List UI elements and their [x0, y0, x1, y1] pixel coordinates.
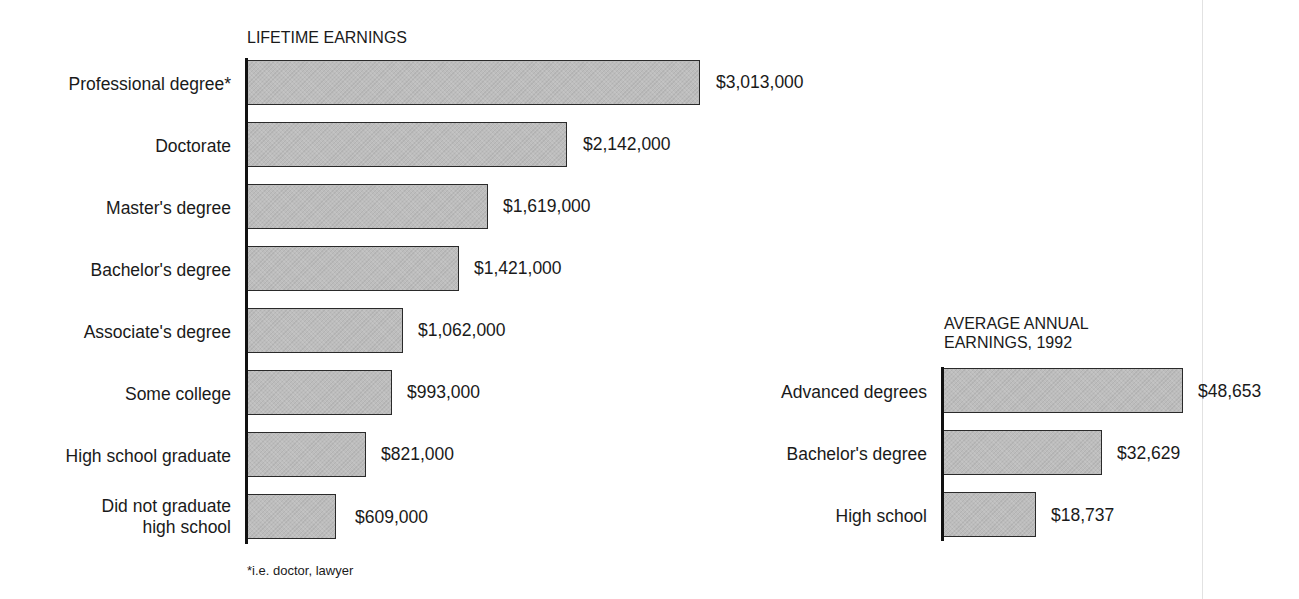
value-label: $18,737: [1051, 505, 1114, 526]
chart-title-line: AVERAGE ANNUAL: [944, 314, 1089, 333]
value-label: $1,421,000: [474, 258, 562, 279]
category-label: Doctorate: [155, 136, 231, 157]
category-label-line: high school: [102, 517, 231, 538]
bar: [248, 308, 403, 353]
value-label: $821,000: [381, 444, 454, 465]
bar: [248, 122, 567, 167]
value-label: $1,062,000: [418, 320, 506, 341]
category-label: Advanced degrees: [781, 382, 927, 403]
bar: [248, 370, 392, 415]
bar: [248, 184, 488, 229]
value-label: $993,000: [407, 382, 480, 403]
category-label-line: Did not graduate: [102, 496, 231, 517]
bar: [248, 60, 700, 105]
chart-title: LIFETIME EARNINGS: [247, 28, 407, 47]
bar: [248, 246, 459, 291]
bar: [944, 492, 1036, 537]
page-divider-line: [1202, 0, 1203, 599]
bar: [248, 494, 336, 539]
category-label: Master's degree: [106, 198, 231, 219]
category-label: Bachelor's degree: [786, 444, 927, 465]
value-label: $609,000: [355, 507, 428, 528]
footnote: *i.e. doctor, lawyer: [247, 563, 353, 578]
category-label: Bachelor's degree: [90, 260, 231, 281]
category-label: Some college: [125, 384, 231, 405]
category-label: Professional degree*: [69, 74, 231, 95]
chart-title: AVERAGE ANNUAL EARNINGS, 1992: [944, 314, 1089, 352]
value-label: $1,619,000: [503, 196, 591, 217]
bar: [944, 430, 1102, 475]
value-label: $2,142,000: [583, 134, 671, 155]
chart-title-line: EARNINGS, 1992: [944, 333, 1089, 352]
category-label: Associate's degree: [84, 322, 231, 343]
category-label: High school: [836, 506, 927, 527]
bar: [944, 368, 1183, 413]
value-label: $32,629: [1117, 443, 1180, 464]
value-label: $48,653: [1198, 381, 1261, 402]
category-label: High school graduate: [66, 446, 231, 467]
value-label: $3,013,000: [716, 72, 804, 93]
bar: [248, 432, 366, 477]
category-label: Did not graduate high school: [102, 496, 231, 538]
